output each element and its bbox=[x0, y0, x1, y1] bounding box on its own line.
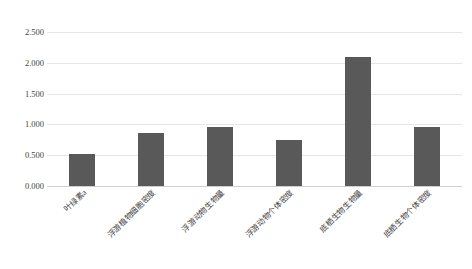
x-axis-tick-label-text: 浮游植物细胞密度 bbox=[105, 188, 157, 240]
gridline bbox=[47, 186, 462, 187]
x-axis-tick-label-text: 底栖生物个体密度 bbox=[382, 188, 434, 240]
bar bbox=[345, 57, 371, 186]
gridline bbox=[47, 124, 462, 125]
y-axis-tick-label: 2.500 bbox=[0, 28, 44, 37]
y-axis-tick-label: 1.000 bbox=[0, 120, 44, 129]
x-axis-tick-label-text: 叶绿素a bbox=[62, 188, 88, 214]
bar-chart: 0.0000.5001.0001.5002.0002.500 叶绿素a浮游植物细… bbox=[0, 0, 472, 269]
x-axis-tick-labels: 叶绿素a浮游植物细胞密度浮游动物生物量浮游动物个体密度底栖生物生物量底栖生物个体… bbox=[47, 188, 462, 269]
y-axis-tick-label: 2.000 bbox=[0, 58, 44, 67]
gridline bbox=[47, 32, 462, 33]
x-axis-tick-label-text: 底栖生物生物量 bbox=[319, 188, 365, 234]
y-axis-tick-label: 0.500 bbox=[0, 151, 44, 160]
x-axis-tick-label-text: 浮游动物个体密度 bbox=[244, 188, 296, 240]
y-axis-tick-label: 0.000 bbox=[0, 182, 44, 191]
y-axis-tick-label: 1.500 bbox=[0, 89, 44, 98]
gridline bbox=[47, 94, 462, 95]
gridline bbox=[47, 63, 462, 64]
y-axis-tick-labels: 0.0000.5001.0001.5002.0002.500 bbox=[0, 32, 44, 186]
x-axis-tick-label-text: 浮游动物生物量 bbox=[180, 188, 226, 234]
